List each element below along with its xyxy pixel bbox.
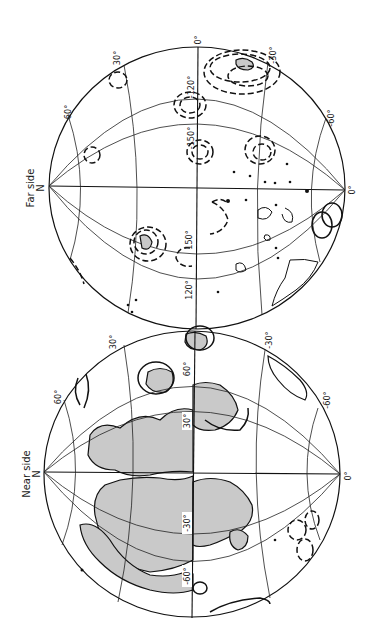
- near-side-lon-label: -60°: [182, 567, 192, 584]
- near-side-lon-label: 30°: [182, 414, 192, 428]
- far-side-shaded-region: [236, 58, 253, 70]
- lunar-hemisphere-maps: Far side N 60° 30° 0° -30° -60° 0° -120°…: [0, 0, 377, 642]
- far-side-lat-label: 0°: [193, 35, 203, 44]
- far-side-lat-label: 30°: [112, 51, 122, 65]
- far-side-contour-arc: [210, 202, 228, 234]
- near-side-contour-ring: [297, 539, 313, 561]
- near-side-lon-label: -30°: [182, 514, 192, 531]
- far-side-lon-label: -120°: [186, 76, 196, 98]
- near-side-lat-label: -30°: [264, 331, 274, 348]
- far-side-lat-label: -30°: [268, 46, 278, 63]
- near-side-solid-arc: [84, 374, 89, 408]
- near-side-lat-label: -60°: [322, 391, 332, 408]
- far-side-shaded-region: [140, 235, 152, 249]
- far-side-pole-label: N: [35, 184, 46, 191]
- near-side-pole-label: N: [31, 470, 42, 477]
- near-side-lon-label: 60°: [182, 362, 192, 376]
- near-side-contour-ring: [288, 520, 306, 540]
- far-side-lat-label: -60°: [326, 109, 336, 126]
- near-side-lat-label: 60°: [53, 390, 63, 404]
- near-side-solid-ring: [193, 582, 207, 594]
- near-side-lat-label: 30°: [108, 335, 118, 349]
- far-side-lat-arc: [68, 115, 81, 260]
- far-side-lon-label: 150°: [184, 230, 194, 250]
- far-side-lon-label: 120°: [184, 280, 194, 300]
- near-side-lat-label: 0°: [343, 471, 353, 480]
- far-side-lon-label: -150°: [186, 127, 196, 149]
- far-side-lat-label: 60°: [63, 105, 73, 119]
- far-side-globe: [49, 47, 345, 329]
- far-side-lat-arc: [124, 65, 137, 313]
- far-side-lat-label: 0°: [347, 185, 357, 194]
- far-side-contour-ring: [109, 72, 127, 88]
- far-side-contour-ring: [253, 144, 271, 160]
